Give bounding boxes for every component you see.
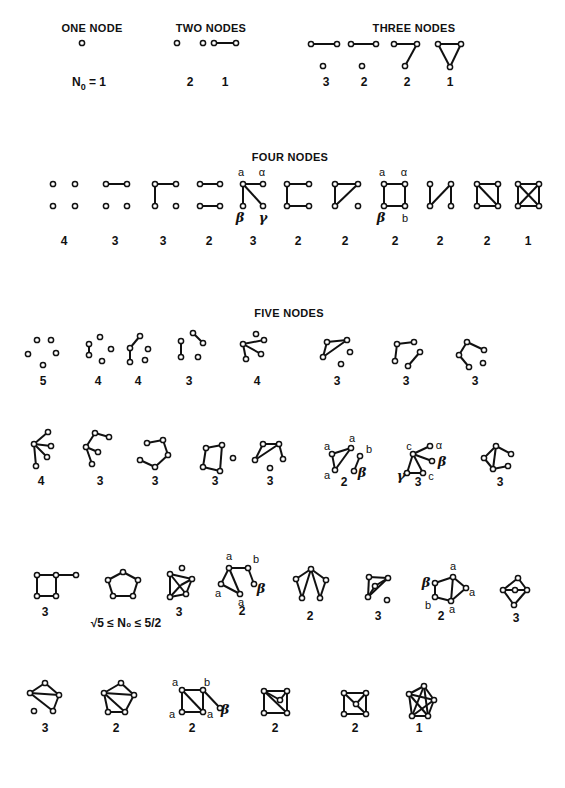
- graph-node: [165, 452, 170, 457]
- graph-g5-15: cαβγc3: [397, 439, 447, 489]
- graph-node: [144, 440, 149, 445]
- n0-value: 1: [447, 75, 454, 89]
- graph-g3-4: 1: [435, 41, 463, 89]
- vertex-label: a: [169, 708, 176, 720]
- graph-node: [515, 203, 520, 208]
- graph-node: [174, 40, 179, 45]
- vertex-label: a: [450, 560, 457, 572]
- n0-value: 2: [341, 475, 348, 489]
- graph-g4-3: 3: [152, 181, 178, 248]
- graph-node: [284, 181, 289, 186]
- graph-node: [260, 203, 265, 208]
- vertex-label: a: [226, 550, 233, 562]
- n0-value: 1: [222, 75, 229, 89]
- graph-node: [103, 181, 108, 186]
- graph-g5-3: 4: [127, 333, 150, 388]
- graph-edge: [335, 184, 358, 206]
- graph-node: [226, 565, 231, 570]
- graph-g5-28: 2: [261, 688, 289, 735]
- graph-g4-9: 2: [427, 181, 453, 248]
- graph-node: [45, 429, 50, 434]
- vertex-label: β: [220, 702, 230, 717]
- graph-node: [200, 687, 205, 692]
- graph-node: [127, 359, 132, 364]
- n0-value: 4: [61, 234, 68, 248]
- graph-node: [500, 587, 505, 592]
- graph-node: [243, 356, 248, 361]
- graph-g4-11: 1: [515, 181, 541, 248]
- graph-g5-24: 3: [500, 575, 529, 625]
- graph-node: [261, 337, 266, 342]
- graph-node: [73, 572, 78, 577]
- graph-node: [481, 347, 486, 352]
- section-heading: ONE NODE: [61, 22, 122, 34]
- graph-node: [167, 594, 172, 599]
- graph-node: [427, 203, 432, 208]
- graph-node: [421, 683, 426, 688]
- graph-node: [363, 690, 368, 695]
- graph-node: [105, 577, 110, 582]
- graph-node: [515, 181, 520, 186]
- vertex-label: γ: [397, 468, 407, 483]
- n0-value: 3: [323, 75, 330, 89]
- graph-node: [355, 181, 360, 186]
- n0-value: 4: [95, 374, 102, 388]
- graph-g3-2: 2: [348, 41, 378, 89]
- graph-node: [240, 341, 245, 346]
- graph-node: [53, 350, 58, 355]
- graph-g4-1: 4: [50, 181, 77, 248]
- graph-node: [40, 362, 45, 367]
- n0-value: 3: [176, 605, 183, 619]
- graph-node: [218, 581, 223, 586]
- graph-node: [240, 203, 245, 208]
- n0-value: 2: [187, 75, 194, 89]
- n0-value: 3: [375, 609, 382, 623]
- graph-g5-21: 2: [293, 566, 328, 623]
- vertex-label: a: [449, 603, 456, 615]
- graph-node: [406, 691, 411, 696]
- vertex-label: β: [437, 454, 447, 469]
- graph-node: [447, 64, 452, 69]
- graph-g5-27: abaaβ2: [169, 676, 230, 735]
- section-heading: TWO NODES: [176, 22, 247, 34]
- graph-node: [53, 593, 58, 598]
- graph-g5-11: 3: [137, 437, 170, 488]
- n0-value: 2: [295, 234, 302, 248]
- vertex-label: b: [253, 553, 259, 565]
- n0-value: 2: [392, 234, 399, 248]
- graph-node: [332, 467, 337, 472]
- graph-edge: [405, 44, 417, 66]
- n0-value: 3: [212, 474, 219, 488]
- graph-node: [25, 351, 30, 356]
- n0-value: 2: [438, 609, 445, 623]
- n0-value: 3: [160, 234, 167, 248]
- pentagon-bound: √5 ≤ N₀ ≤ 5/2: [91, 616, 162, 630]
- graph-node: [332, 203, 337, 208]
- graph-node: [135, 577, 140, 582]
- graph-node: [260, 181, 265, 186]
- graph-node: [493, 443, 498, 448]
- graph-node: [414, 41, 419, 46]
- graph-node: [260, 441, 265, 446]
- graph-node: [92, 430, 97, 435]
- graph-node: [97, 334, 102, 339]
- graph-node: [456, 352, 461, 357]
- graph-node: [152, 464, 157, 469]
- n0-value: 1: [525, 234, 532, 248]
- graph-g5-20: abaaβ2: [215, 550, 266, 618]
- graph-node: [101, 690, 106, 695]
- pentagon-bound-label: √5 ≤ N₀ ≤ 5/2: [91, 616, 162, 630]
- graph-node: [179, 687, 184, 692]
- vertex-label: a: [379, 166, 386, 178]
- graph-node: [515, 575, 520, 580]
- n0-value: 3: [472, 374, 479, 388]
- graph-node: [306, 181, 311, 186]
- graph-g5-13: 3: [252, 441, 285, 488]
- graph-node: [200, 40, 205, 45]
- section-heading: THREE NODES: [373, 22, 456, 34]
- n0-value: 3: [250, 234, 257, 248]
- graph-node: [86, 341, 91, 346]
- graph-node: [48, 337, 53, 342]
- n0-value: 3: [42, 721, 49, 735]
- n0-value: 3: [403, 374, 410, 388]
